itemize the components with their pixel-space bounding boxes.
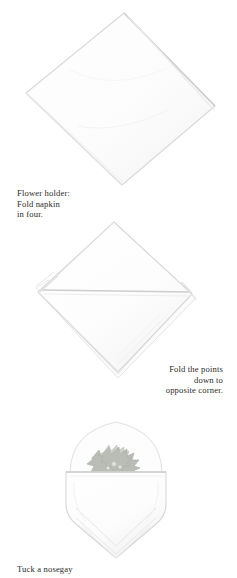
figure-fold-points [14,214,214,386]
caption-tuck-nosegay: Tuck a nosegay [17,564,73,575]
napkin-layers [36,222,196,378]
holder-body [66,422,166,558]
instruction-page: Flower holder: Fold napkin in four. [0,0,237,578]
figure-holder [52,412,180,564]
figure-fold-in-four [18,6,223,192]
napkin-diamond [26,13,215,185]
caption-fold-points: Fold the points down to opposite corner. [166,364,223,396]
